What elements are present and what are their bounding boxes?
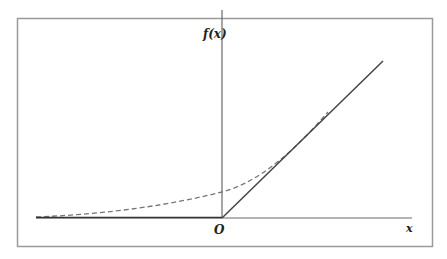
relu-softplus-diagram: f(x) O x — [0, 0, 447, 259]
frame-border — [18, 19, 433, 247]
y-axis-label: f(x) — [202, 27, 227, 41]
relu-positive-segment — [222, 61, 383, 218]
x-axis-label: x — [405, 222, 413, 235]
origin-label: O — [214, 223, 225, 237]
softplus-dashed-curve — [36, 112, 328, 217]
